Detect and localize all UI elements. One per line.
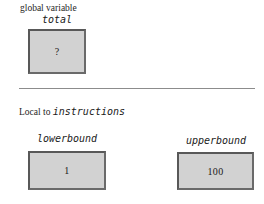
- variable-value-upperbound: 100: [208, 166, 224, 177]
- variable-value-lowerbound: 1: [64, 165, 69, 176]
- local-variable-name-upperbound: upperbound: [177, 135, 255, 146]
- global-variable-name-total: total: [28, 14, 86, 25]
- global-scope-label: global variable: [20, 3, 77, 14]
- variable-box-total: ?: [28, 29, 86, 74]
- local-variable-name-lowerbound: lowerbound: [28, 133, 106, 144]
- variable-value-total: ?: [55, 46, 60, 57]
- scope-divider: [19, 88, 255, 89]
- local-scope-function-name: instructions: [53, 106, 125, 117]
- local-scope-label-prefix: Local to: [19, 107, 50, 117]
- local-scope-label: Local to instructions: [19, 106, 125, 118]
- variable-box-upperbound: 100: [177, 152, 254, 190]
- variable-box-lowerbound: 1: [28, 151, 106, 190]
